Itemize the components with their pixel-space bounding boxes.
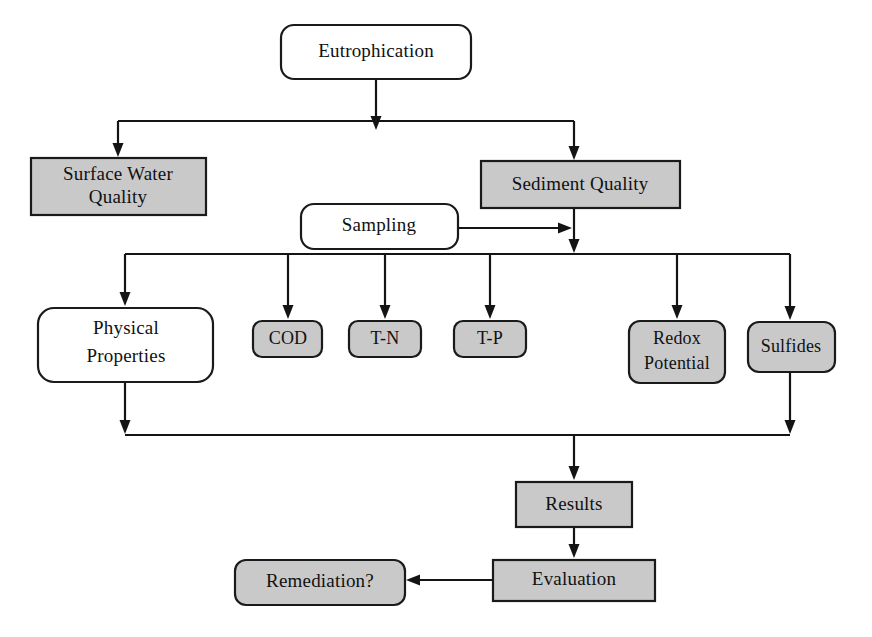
sulfides-label: Sulfides: [761, 336, 822, 356]
redox-potential-label-line1: Redox: [653, 328, 701, 348]
flowchart-canvas: Eutrophication Surface Water Quality Sed…: [0, 0, 872, 637]
sampling-label: Sampling: [342, 214, 417, 235]
edge-distribution-to-physical: [120, 254, 131, 306]
edge-distribution-to-tn: [380, 254, 391, 319]
node-sediment-quality[interactable]: Sediment Quality: [481, 161, 680, 208]
flowchart-diagram: Eutrophication Surface Water Quality Sed…: [0, 0, 872, 637]
node-t-n[interactable]: T-N: [349, 321, 421, 357]
cod-label: COD: [269, 328, 308, 348]
node-physical-properties[interactable]: Physical Properties: [38, 308, 213, 382]
node-eutrophication[interactable]: Eutrophication: [281, 25, 471, 79]
surface-water-quality-label-line1: Surface Water: [63, 163, 173, 184]
evaluation-label: Evaluation: [532, 568, 617, 589]
edge-physical-to-collection: [120, 382, 131, 434]
physical-properties-label-line1: Physical: [93, 317, 159, 338]
edge-distribution-to-cod: [283, 254, 294, 319]
node-remediation[interactable]: Remediation?: [235, 560, 405, 605]
edge-sediment-to-distribution: [569, 208, 580, 253]
edge-sampling-to-sediment-line: [458, 223, 572, 234]
surface-water-quality-label-line2: Quality: [89, 186, 148, 207]
edge-results-to-evaluation: [569, 527, 580, 558]
edge-collection-to-results: [569, 435, 580, 480]
node-cod[interactable]: COD: [253, 321, 322, 357]
node-redox-potential[interactable]: Redox Potential: [629, 321, 725, 383]
edge-distribution-to-sulfides: [785, 254, 796, 320]
node-t-p[interactable]: T-P: [454, 321, 526, 357]
edge-evaluation-to-remediation: [406, 575, 493, 586]
results-label: Results: [545, 493, 602, 514]
t-n-label: T-N: [371, 328, 400, 348]
node-results[interactable]: Results: [516, 482, 632, 527]
edge-split-to-sediment-quality: [569, 121, 580, 160]
edge-eutrophication-to-split: [371, 79, 382, 130]
node-sulfides[interactable]: Sulfides: [748, 322, 835, 372]
edge-sulfides-to-collection: [785, 372, 796, 434]
node-sampling[interactable]: Sampling: [301, 204, 458, 249]
t-p-label: T-P: [477, 328, 503, 348]
node-surface-water-quality[interactable]: Surface Water Quality: [31, 158, 206, 215]
edge-distribution-to-redox: [672, 254, 683, 319]
eutrophication-label: Eutrophication: [318, 40, 434, 61]
remediation-label: Remediation?: [266, 570, 374, 591]
sediment-quality-label: Sediment Quality: [512, 173, 649, 194]
edge-distribution-to-tp: [485, 254, 496, 319]
redox-potential-label-line2: Potential: [644, 353, 710, 373]
node-evaluation[interactable]: Evaluation: [493, 560, 655, 601]
edge-split-to-surface-water: [113, 121, 124, 157]
physical-properties-label-line2: Properties: [86, 345, 165, 366]
